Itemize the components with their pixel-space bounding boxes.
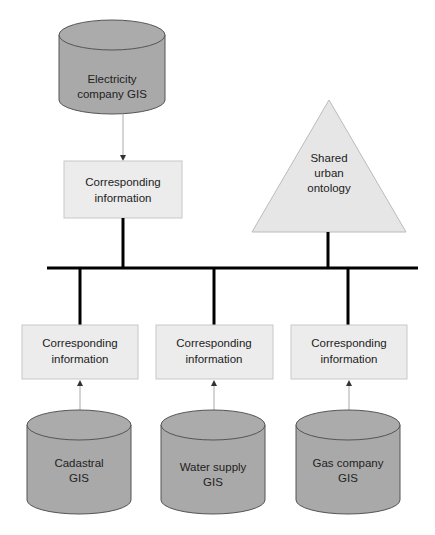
ontology-label: urban [314, 167, 343, 179]
box-label: information [321, 353, 378, 365]
box-label: Corresponding [311, 337, 386, 349]
database-label: Water supply [180, 461, 247, 473]
box-label: information [52, 353, 109, 365]
database-label: GIS [338, 472, 358, 484]
ontology-label: ontology [307, 182, 351, 194]
ontology-label: Shared [310, 152, 347, 164]
box-label: information [95, 192, 152, 204]
box-label: information [186, 353, 243, 365]
database-water-supply: Water supply GIS [161, 410, 265, 514]
database-label: Cadastral [54, 457, 103, 469]
box-top: Corresponding information [64, 161, 182, 218]
database-label: Electricity [87, 73, 136, 85]
database-cadastral: Cadastral GIS [27, 410, 131, 514]
shared-ontology-triangle: Shared urban ontology [252, 100, 406, 232]
database-gas-company: Gas company GIS [296, 410, 400, 514]
diagram-canvas: Electricity company GIS Corresponding in… [0, 0, 435, 535]
box-left: Corresponding information [22, 325, 138, 379]
database-label: company GIS [77, 88, 147, 100]
box-label: Corresponding [85, 176, 160, 188]
database-label: GIS [69, 472, 89, 484]
box-right: Corresponding information [291, 325, 407, 379]
box-mid: Corresponding information [156, 325, 273, 379]
database-label: GIS [203, 476, 223, 488]
arrow-electricity-to-box [120, 114, 126, 161]
database-label: Gas company [313, 457, 384, 469]
database-electricity: Electricity company GIS [59, 20, 165, 114]
box-label: Corresponding [42, 337, 117, 349]
box-label: Corresponding [176, 337, 251, 349]
